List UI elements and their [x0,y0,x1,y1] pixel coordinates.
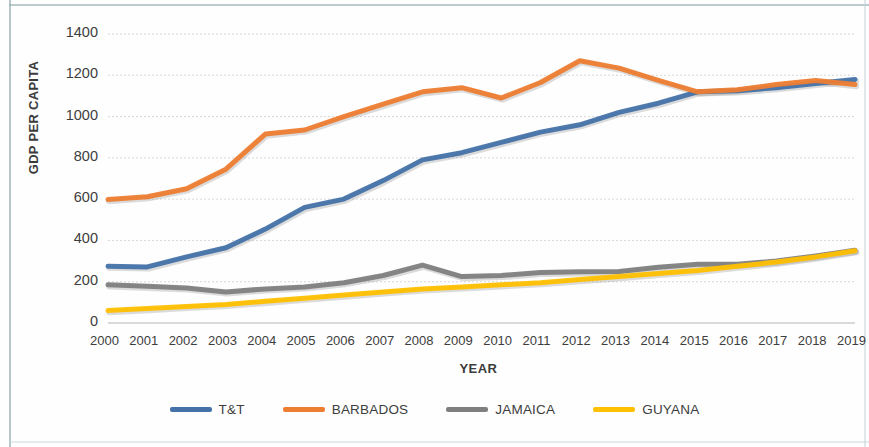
plot-canvas [0,0,869,447]
x-axis-tick: 2004 [247,333,276,348]
legend-item-guyana[interactable]: GUYANA [593,402,699,417]
x-axis-tick: 2003 [208,333,237,348]
legend-label: BARBADOS [332,402,409,417]
legend-item-jamaica[interactable]: JAMAICA [446,402,555,417]
y-axis-tick: 1000 [42,107,98,123]
legend-label: T&T [219,402,245,417]
x-axis-tick: 2005 [287,333,316,348]
legend-label: GUYANA [642,402,699,417]
y-axis-tick: 0 [42,313,98,329]
x-axis-tick: 2006 [326,333,355,348]
y-axis-tick: 1200 [42,65,98,81]
x-axis-tick: 2014 [640,333,669,348]
x-axis-tick: 2012 [562,333,591,348]
x-axis-tick: 2018 [798,333,827,348]
legend-swatch-icon [283,407,325,412]
x-axis-title: YEAR [460,361,498,376]
x-axis-tick: 2017 [758,333,787,348]
chart-page: GDP PER CAPITA 0200400600800100012001400… [0,0,869,447]
y-axis-tick: 800 [42,148,98,164]
x-axis-tick: 2011 [522,333,550,348]
x-axis-tick: 2013 [601,333,630,348]
x-axis-tick: 2002 [169,333,198,348]
series-line-guyana [108,251,855,311]
x-axis-tick: 2008 [405,333,434,348]
x-axis-tick: 2007 [365,333,394,348]
x-axis-tick: 2015 [680,333,709,348]
chart-legend: T&TBARBADOSJAMAICAGUYANA [0,402,869,417]
x-axis-tick: 2001 [129,333,158,348]
y-axis-tick: 200 [42,272,98,288]
y-axis-tick: 1400 [42,24,98,40]
series-line-barbados [108,61,855,200]
x-axis-tick: 2010 [483,333,512,348]
y-axis-tick: 400 [42,230,98,246]
legend-swatch-icon [446,407,488,412]
x-axis-tick: 2016 [719,333,748,348]
y-axis-tick: 600 [42,189,98,205]
y-axis-title: GDP PER CAPITA [26,43,41,193]
legend-swatch-icon [593,407,635,412]
x-axis-tick: 2000 [90,333,119,348]
legend-item-t-t[interactable]: T&T [170,402,245,417]
x-axis-tick: 2009 [444,333,473,348]
legend-item-barbados[interactable]: BARBADOS [283,402,409,417]
line-chart: GDP PER CAPITA 0200400600800100012001400… [0,0,869,447]
x-axis-tick: 2019 [837,333,866,348]
legend-label: JAMAICA [495,402,555,417]
legend-swatch-icon [170,407,212,412]
